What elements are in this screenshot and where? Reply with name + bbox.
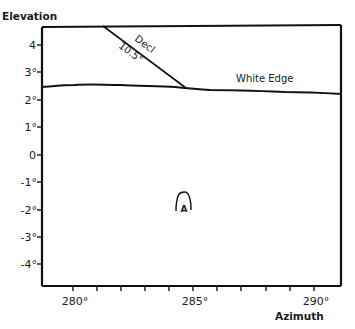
x-tick-280: 280° bbox=[62, 295, 89, 308]
x-tick-290: 290° bbox=[303, 295, 330, 308]
y-tick-minus-3: -3° bbox=[21, 231, 37, 244]
y-tick-2: 2° bbox=[25, 94, 38, 107]
x-axis-title: Azimuth bbox=[275, 310, 324, 322]
y-tick-3: 3° bbox=[25, 66, 38, 79]
elevation-azimuth-chart: Elevation 4 3° 2° 1° 0 -1° -2° -3° -4° bbox=[0, 0, 355, 329]
y-tick-0: 0 bbox=[29, 149, 36, 162]
plot-frame bbox=[42, 25, 341, 286]
y-tick-minus-4: -4° bbox=[21, 258, 37, 271]
y-axis-title: Elevation bbox=[2, 10, 57, 22]
y-tick-4: 4 bbox=[29, 39, 36, 52]
marker-a-label: A bbox=[181, 204, 188, 214]
y-axis-tick-labels: 4 3° 2° 1° 0 -1° -2° -3° -4° bbox=[21, 39, 37, 271]
white-edge-label: White Edge bbox=[236, 73, 293, 84]
x-axis-tick-labels: 280° 285° 290° bbox=[62, 295, 330, 308]
x-tick-285: 285° bbox=[182, 295, 209, 308]
y-tick-1: 1° bbox=[25, 121, 38, 134]
y-tick-minus-1: -1° bbox=[21, 176, 37, 189]
white-edge-line bbox=[42, 85, 341, 94]
y-tick-minus-2: -2° bbox=[21, 204, 37, 217]
marker-a: A bbox=[176, 192, 191, 214]
